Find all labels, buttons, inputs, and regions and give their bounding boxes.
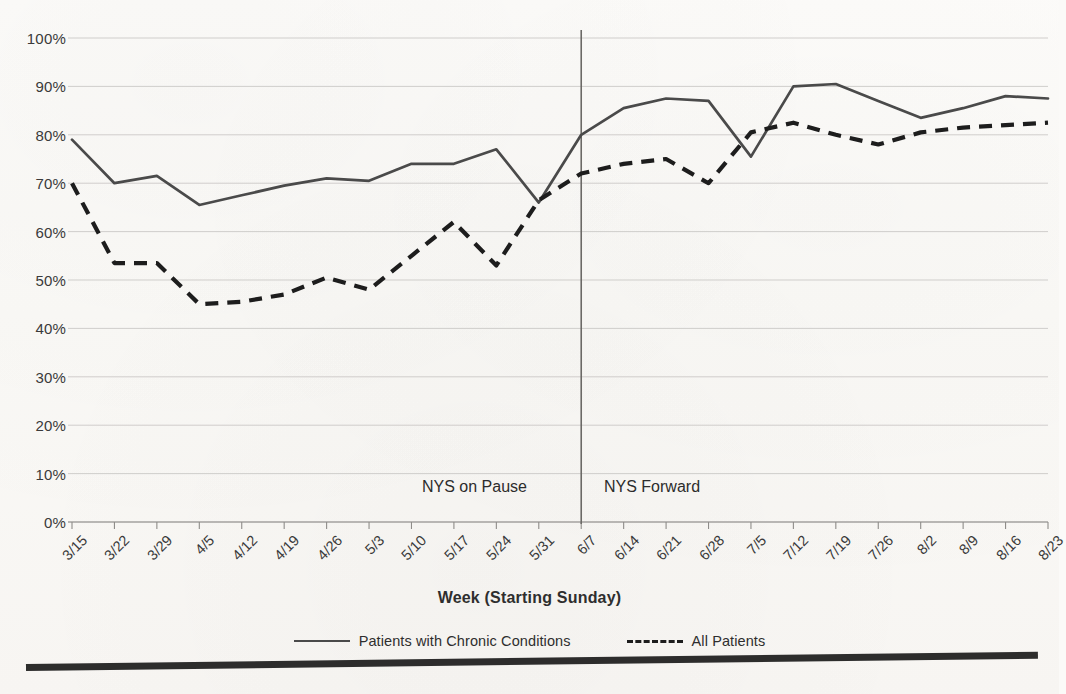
chart-legend: Patients with Chronic Conditions All Pat… [0,633,1059,649]
annotation-nys-on-pause: NYS on Pause [422,478,527,496]
annotation-nys-forward: NYS Forward [604,478,700,496]
legend-label-all-patients: All Patients [692,633,766,649]
legend-swatch-solid-icon [294,640,350,642]
legend-item-chronic: Patients with Chronic Conditions [294,633,571,649]
legend-swatch-dashed-icon [627,640,683,643]
legend-label-chronic: Patients with Chronic Conditions [359,633,571,649]
x-axis-title: Week (Starting Sunday) [0,589,1059,607]
legend-item-all-patients: All Patients [627,633,766,649]
